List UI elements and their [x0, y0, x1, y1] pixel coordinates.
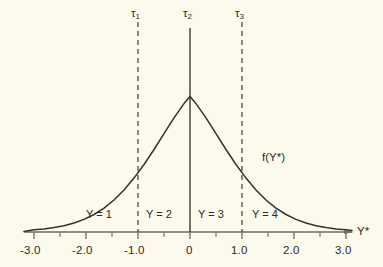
tau-1-symbol: τ: [131, 7, 136, 19]
x-tick-label-neg3: -3.0: [20, 245, 41, 257]
distribution-plot: [0, 0, 383, 267]
tau-1-label: τ1: [131, 8, 140, 20]
x-tick-label-zero: 0: [186, 245, 193, 257]
ordered-probit-threshold-figure: τ1 τ2 τ3 f(Y*) Y = 1 Y = 2 Y = 3 Y = 4 -…: [0, 0, 383, 267]
tau-2-label: τ2: [183, 8, 192, 20]
region-label-y2: Y = 2: [146, 209, 172, 220]
tau-3-label: τ3: [235, 8, 244, 20]
tau-2-symbol: τ: [183, 7, 188, 19]
tau-2-subscript: 2: [188, 12, 192, 21]
region-label-y3: Y = 3: [198, 209, 224, 220]
curve-label: f(Y*): [262, 152, 285, 164]
x-axis-major-ticks: [34, 232, 346, 239]
x-tick-label-pos3: 3.0: [335, 245, 352, 257]
tau-3-subscript: 3: [240, 12, 244, 21]
x-axis-label: Y*: [357, 226, 369, 238]
tau-3-symbol: τ: [235, 7, 240, 19]
region-label-y4: Y = 4: [252, 209, 278, 220]
region-label-y1: Y = 1: [86, 209, 112, 220]
tau-1-subscript: 1: [136, 12, 140, 21]
x-tick-label-pos1: 1.0: [231, 245, 248, 257]
x-tick-label-pos2: 2.0: [283, 245, 300, 257]
x-tick-label-neg2: -2.0: [72, 245, 93, 257]
normal-density-curve: [24, 96, 352, 231]
x-tick-label-neg1: -1.0: [124, 245, 145, 257]
